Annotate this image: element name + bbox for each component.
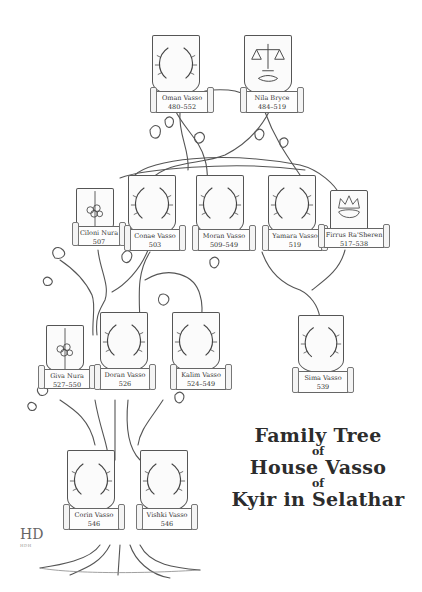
member-vishki[interactable]: Vishki Vasso 546: [138, 450, 198, 532]
member-name: Oman Vasso: [157, 94, 207, 103]
member-dates: 526: [101, 380, 149, 389]
name-scroll: Sima Vasso 539: [298, 371, 348, 393]
wreath-shield-icon: [196, 175, 244, 235]
member-dates: 507: [79, 238, 119, 247]
name-scroll: Conae Vasso 503: [130, 229, 180, 251]
wreath-shield-icon: [172, 312, 220, 372]
scales-handshake-shield-icon: [244, 35, 292, 95]
member-name: Conae Vasso: [131, 232, 179, 241]
name-scroll: Kalim Vasso 524–549: [176, 368, 226, 390]
member-dates: 484–519: [247, 103, 297, 112]
name-scroll: Ciloni Nura 507: [78, 226, 120, 246]
member-name: Ciloni Nura: [79, 229, 119, 238]
member-dates: 509–549: [199, 241, 249, 250]
member-oman[interactable]: Oman Vasso 480–552: [150, 35, 212, 115]
member-ciloni[interactable]: Ciloni Nura 507: [76, 188, 124, 250]
member-dates: 524–549: [177, 380, 225, 389]
member-nila[interactable]: Nila Bryce 484–519: [240, 35, 302, 115]
member-dates: 527–550: [45, 381, 89, 390]
member-name: Giva Nura: [45, 372, 89, 381]
member-name: Firrus Ra'Sheren: [325, 231, 383, 240]
flower-shield-icon: [46, 325, 84, 373]
member-name: Yamara Vasso: [269, 232, 321, 241]
wreath-shield-icon: [140, 450, 188, 512]
title-house-vasso: House Vasso: [228, 457, 408, 478]
wreath-shield-icon: [67, 450, 115, 512]
member-corin[interactable]: Corin Vasso 546: [65, 450, 125, 532]
member-name: Moran Vasso: [199, 232, 249, 241]
member-name: Corin Vasso: [70, 511, 118, 520]
wreath-shield-icon: [100, 312, 148, 372]
name-scroll: Moran Vasso 509–549: [198, 229, 250, 251]
title-kyir-in-selathar: Kyir in Selathar: [228, 489, 408, 510]
member-yamara[interactable]: Yamara Vasso 519: [266, 175, 326, 253]
artist-monogram: HD: [20, 526, 43, 542]
member-sima[interactable]: Sima Vasso 539: [294, 315, 354, 393]
member-name: Doran Vasso: [101, 371, 149, 380]
name-scroll: Doran Vasso 526: [100, 368, 150, 390]
member-name: Kalim Vasso: [177, 371, 225, 380]
wreath-shield-icon: [128, 175, 176, 235]
name-scroll: Firrus Ra'Sheren 517–538: [324, 228, 384, 248]
title-family-tree: Family Tree: [228, 425, 408, 446]
member-dates: 480–552: [157, 103, 207, 112]
member-dates: 517–538: [325, 240, 383, 249]
wreath-shield-icon: [152, 35, 200, 95]
member-dates: 503: [131, 241, 179, 250]
member-conae[interactable]: Conae Vasso 503: [126, 175, 186, 253]
name-scroll: Yamara Vasso 519: [268, 229, 322, 251]
member-dates: 546: [70, 520, 118, 529]
tree-title: Family Tree of House Vasso of Kyir in Se…: [228, 425, 408, 510]
member-giva[interactable]: Giva Nura 527–550: [42, 325, 94, 391]
member-moran[interactable]: Moran Vasso 509–549: [194, 175, 254, 253]
name-scroll: Nila Bryce 484–519: [246, 91, 298, 113]
wreath-shield-icon: [298, 315, 344, 373]
artist-signature-sub: HDH: [20, 543, 32, 548]
crown-shield-icon: [330, 190, 368, 230]
member-name: Vishki Vasso: [143, 511, 191, 520]
name-scroll: Giva Nura 527–550: [44, 369, 90, 389]
member-firrus[interactable]: Firrus Ra'Sheren 517–538: [322, 190, 388, 252]
member-doran[interactable]: Doran Vasso 526: [98, 312, 158, 390]
member-dates: 546: [143, 520, 191, 529]
member-name: Nila Bryce: [247, 94, 297, 103]
member-dates: 519: [269, 241, 321, 250]
name-scroll: Oman Vasso 480–552: [156, 91, 208, 113]
member-kalim[interactable]: Kalim Vasso 524–549: [170, 312, 230, 390]
name-scroll: Vishki Vasso 546: [142, 508, 192, 530]
name-scroll: Corin Vasso 546: [69, 508, 119, 530]
wreath-shield-icon: [268, 175, 316, 235]
member-dates: 539: [299, 383, 347, 392]
member-name: Sima Vasso: [299, 374, 347, 383]
